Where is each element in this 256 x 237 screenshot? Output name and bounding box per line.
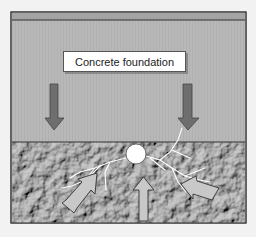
foundation-top-bar — [12, 13, 245, 20]
void-circle — [126, 144, 146, 164]
diagram: Concrete foundation — [0, 0, 256, 237]
foundation-diagram-svg — [0, 0, 256, 237]
foundation-block — [12, 13, 245, 142]
concrete-foundation-label: Concrete foundation — [63, 51, 186, 72]
